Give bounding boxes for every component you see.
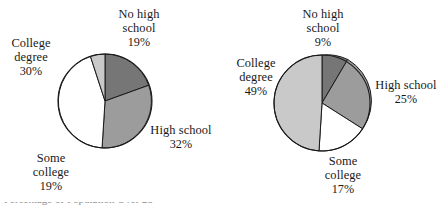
right-label-no-high-school-line2: school xyxy=(285,22,361,36)
clipped-caption-text: Percentage of Population Over 25 xyxy=(4,202,153,205)
left-label-no-high-school-line1: No high xyxy=(96,8,182,22)
left-label-no-high-school-line2: school xyxy=(96,22,182,36)
right-label-no-high-school: No high school 9% xyxy=(285,8,361,49)
right-pie-panel: No high school 9% High school 25% Some c… xyxy=(223,0,445,200)
pie-chart-figure: No high school 19% High school 32% Some … xyxy=(0,0,445,213)
left-label-high-school-line1: High school xyxy=(140,124,222,138)
left-label-no-high-school: No high school 19% xyxy=(96,8,182,49)
left-label-no-high-school-pct: 19% xyxy=(96,36,182,50)
clipped-caption-strip: Percentage of Population Over 25 xyxy=(0,202,445,213)
right-label-some-college-pct: 17% xyxy=(312,183,374,197)
right-label-high-school-line1: High school xyxy=(367,79,445,93)
right-label-some-college-line2: college xyxy=(312,169,374,183)
right-label-college-degree-line1: College xyxy=(225,57,287,71)
right-label-no-high-school-line1: No high xyxy=(285,8,361,22)
left-label-some-college: Some college 19% xyxy=(20,152,82,193)
right-label-some-college-line1: Some xyxy=(312,155,374,169)
left-label-high-school-pct: 32% xyxy=(140,138,222,152)
left-label-some-college-pct: 19% xyxy=(20,180,82,194)
right-label-college-degree-pct: 49% xyxy=(225,85,287,99)
left-pie-panel: No high school 19% High school 32% Some … xyxy=(0,0,222,200)
left-label-high-school: High school 32% xyxy=(140,124,222,152)
left-label-college-degree-line1: College xyxy=(0,37,62,51)
left-label-some-college-line2: college xyxy=(20,166,82,180)
right-label-no-high-school-pct: 9% xyxy=(285,36,361,50)
right-label-high-school: High school 25% xyxy=(367,79,445,107)
right-label-some-college: Some college 17% xyxy=(312,155,374,196)
left-label-some-college-line1: Some xyxy=(20,152,82,166)
right-label-high-school-pct: 25% xyxy=(367,93,445,107)
right-label-college-degree: College degree 49% xyxy=(225,57,287,98)
right-label-college-degree-line2: degree xyxy=(225,71,287,85)
left-label-college-degree-line2: degree xyxy=(0,51,62,65)
left-label-college-degree-pct: 30% xyxy=(0,65,62,79)
left-label-college-degree: College degree 30% xyxy=(0,37,62,78)
